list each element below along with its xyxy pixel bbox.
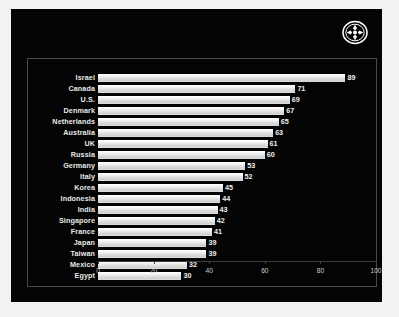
bar-row: Singapore 42 (28, 215, 376, 226)
bar-row: Israel 89 (28, 72, 376, 83)
category-label: Italy (28, 173, 98, 181)
category-label: India (28, 206, 98, 214)
bar-value-label: 67 (286, 106, 294, 115)
chart-frame: Israel 89 Canada 71 U. (27, 58, 377, 287)
bar-track: 44 (98, 193, 376, 204)
bar-track: 89 (98, 72, 376, 83)
bar-row: Indonesia 44 (28, 193, 376, 204)
bar-value-label: 53 (247, 161, 255, 170)
x-tick-mark (376, 261, 377, 264)
bar-value-label: 65 (281, 117, 289, 126)
bar-value-label: 39 (208, 238, 216, 247)
bar (98, 184, 223, 192)
bar-value-label: 44 (222, 194, 230, 203)
x-axis: 020406080100 (98, 261, 376, 286)
bar (98, 74, 345, 82)
bar-track: 52 (98, 171, 376, 182)
screenshot-canvas: Israel 89 Canada 71 U. (0, 0, 399, 317)
category-label: Australia (28, 129, 98, 137)
x-tick-mark (209, 261, 210, 264)
bar (98, 173, 243, 181)
bar-row: U.S. 69 (28, 94, 376, 105)
bar (98, 217, 215, 225)
bar-row: Russia 60 (28, 149, 376, 160)
x-tick-label: 60 (261, 267, 268, 275)
x-tick-label: 0 (96, 267, 100, 275)
bar (98, 206, 218, 214)
bar-track: 41 (98, 226, 376, 237)
x-tick-mark (265, 261, 266, 264)
category-label: Japan (28, 239, 98, 247)
bar-row: Canada 71 (28, 83, 376, 94)
bar-row: Japan 39 (28, 237, 376, 248)
category-label: Israel (28, 74, 98, 82)
bar-value-label: 41 (214, 227, 222, 236)
bar-row: India 43 (28, 204, 376, 215)
bar-track: 42 (98, 215, 376, 226)
bar-row: Germany 53 (28, 160, 376, 171)
category-label: Korea (28, 184, 98, 192)
category-label: Germany (28, 162, 98, 170)
bar-track: 39 (98, 248, 376, 259)
bar (98, 96, 290, 104)
x-tick-mark (98, 261, 99, 264)
bar-track: 61 (98, 138, 376, 149)
bar-row: UK 61 (28, 138, 376, 149)
category-label: Netherlands (28, 118, 98, 126)
bar-value-label: 89 (347, 73, 355, 82)
bar-chart-plot: Israel 89 Canada 71 U. (28, 59, 376, 286)
bar-row: Italy 52 (28, 171, 376, 182)
category-label: Indonesia (28, 195, 98, 203)
x-tick-label: 20 (150, 267, 157, 275)
bar (98, 140, 268, 148)
bar-track: 65 (98, 116, 376, 127)
category-label: Egypt (28, 272, 98, 280)
x-tick-label: 100 (370, 267, 381, 275)
bar-value-label: 61 (270, 139, 278, 148)
category-label: Russia (28, 151, 98, 159)
bar-track: 53 (98, 160, 376, 171)
category-label: U.S. (28, 96, 98, 104)
bar-track: 60 (98, 149, 376, 160)
bar (98, 151, 265, 159)
bar-value-label: 69 (292, 95, 300, 104)
bar (98, 129, 273, 137)
bar (98, 118, 279, 126)
bar-row: Taiwan 39 (28, 248, 376, 259)
category-label: Canada (28, 85, 98, 93)
category-label: Singapore (28, 217, 98, 225)
bar-track: 67 (98, 105, 376, 116)
bar (98, 239, 206, 247)
bar (98, 228, 212, 236)
bar-value-label: 42 (217, 216, 225, 225)
bar-value-label: 71 (297, 84, 305, 93)
category-label: UK (28, 140, 98, 148)
x-tick-mark (320, 261, 321, 264)
bar-value-label: 45 (225, 183, 233, 192)
bar-row: Korea 45 (28, 182, 376, 193)
bar-value-label: 43 (220, 205, 228, 214)
bar-row: Denmark 67 (28, 105, 376, 116)
bar-track: 69 (98, 94, 376, 105)
category-label: France (28, 228, 98, 236)
bar-track: 39 (98, 237, 376, 248)
category-label: Mexico (28, 261, 98, 269)
x-axis-line (98, 261, 376, 262)
bar (98, 250, 206, 258)
category-label: Denmark (28, 107, 98, 115)
bar (98, 162, 245, 170)
x-tick-label: 40 (206, 267, 213, 275)
chart-panel: Israel 89 Canada 71 U. (11, 9, 382, 302)
bar (98, 107, 284, 115)
circular-pinwheel-emblem-icon (341, 20, 369, 45)
bar-value-label: 39 (208, 249, 216, 258)
bar-value-label: 52 (245, 172, 253, 181)
category-label: Taiwan (28, 250, 98, 258)
bar-track: 43 (98, 204, 376, 215)
bar-track: 71 (98, 83, 376, 94)
bar-rows: Israel 89 Canada 71 U. (28, 72, 376, 281)
bar-value-label: 63 (275, 128, 283, 137)
bar-track: 63 (98, 127, 376, 138)
bar-track: 45 (98, 182, 376, 193)
bar (98, 85, 295, 93)
